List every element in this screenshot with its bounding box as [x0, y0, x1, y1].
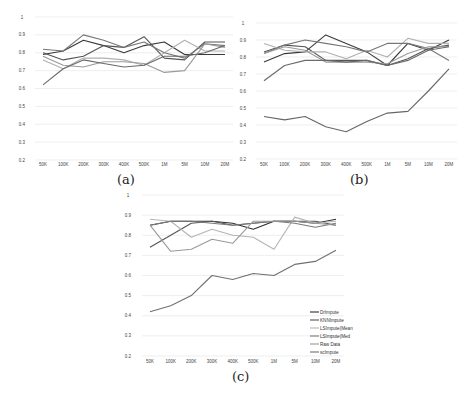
y-tick-label: 0.3 [125, 333, 132, 338]
y-tick-label: 0.7 [125, 253, 132, 258]
x-tick-label: 5M [181, 162, 188, 167]
y-tick-label: 1 [127, 193, 130, 198]
legend-label: LSImpute(Mean [320, 326, 353, 331]
y-tick-label: 0.2 [19, 158, 26, 163]
y-tick-label: 0.4 [240, 123, 247, 128]
series-line-scimpute [150, 250, 336, 311]
x-tick-label: 200K [300, 162, 311, 167]
series-line-scimpute-low [264, 69, 449, 132]
x-tick-label: 20M [221, 162, 230, 167]
x-tick-label: 10M [200, 162, 209, 167]
series-line-lsimpute-mean [150, 217, 336, 249]
x-tick-label: 1M [384, 162, 391, 167]
x-tick-label: 500K [248, 359, 259, 364]
figure-canvas: 10.90.80.70.60.50.40.30.250K100K200K300K… [0, 0, 475, 399]
x-tick-label: 200K [78, 162, 89, 167]
x-tick-label: 1M [271, 359, 278, 364]
x-tick-label: 500K [139, 162, 150, 167]
y-tick-label: 0.6 [240, 89, 247, 94]
legend-label: Raw Data [320, 342, 341, 347]
y-tick-label: 0.9 [19, 32, 26, 37]
y-tick-label: 0.5 [240, 106, 247, 111]
x-tick-label: 200K [186, 359, 197, 364]
y-tick-label: 0.9 [125, 213, 132, 218]
y-tick-label: 1 [21, 15, 24, 20]
x-tick-label: 400K [119, 162, 130, 167]
x-tick-label: 50K [260, 162, 268, 167]
legend-label: scImpute [320, 350, 339, 355]
x-tick-label: 10M [311, 359, 320, 364]
x-tick-label: 50K [146, 359, 154, 364]
y-tick-label: 1 [242, 21, 245, 26]
series-line-scimpute [43, 46, 225, 85]
x-tick-label: 1M [161, 162, 168, 167]
x-tick-label: 100K [165, 359, 176, 364]
caption-a: (a) [117, 172, 135, 187]
x-tick-label: 300K [207, 359, 218, 364]
y-tick-label: 0.4 [125, 313, 132, 318]
chart-b: 10.90.80.70.60.50.40.30.250K100K200K300K… [240, 21, 457, 168]
x-tick-label: 100K [279, 162, 290, 167]
x-tick-label: 400K [341, 162, 352, 167]
x-tick-label: 5M [405, 162, 412, 167]
x-tick-label: 20M [332, 359, 341, 364]
series-line-knnimpute [150, 221, 336, 247]
y-tick-label: 0.8 [125, 233, 132, 238]
y-tick-label: 0.9 [240, 38, 247, 43]
x-tick-label: 400K [227, 359, 238, 364]
x-tick-label: 5M [292, 359, 299, 364]
y-tick-label: 0.2 [125, 354, 132, 359]
x-tick-label: 20M [445, 162, 454, 167]
y-tick-label: 0.7 [240, 72, 247, 77]
x-tick-label: 100K [58, 162, 69, 167]
caption-c: (c) [232, 369, 249, 384]
x-tick-label: 50K [39, 162, 47, 167]
y-tick-label: 0.8 [240, 55, 247, 60]
x-tick-label: 10M [424, 162, 433, 167]
y-tick-label: 0.8 [19, 50, 26, 55]
legend-label: KNNImpute [320, 318, 344, 323]
legend-label: LSImpute(Med [320, 334, 351, 339]
x-tick-label: 500K [362, 162, 373, 167]
y-tick-label: 0.3 [19, 140, 26, 145]
y-tick-label: 0.6 [125, 273, 132, 278]
legend-label: DrImpute [320, 310, 339, 315]
y-tick-label: 0.6 [19, 86, 26, 91]
x-tick-label: 300K [320, 162, 331, 167]
chart-c: 10.90.80.70.60.50.40.30.250K100K200K300K… [125, 193, 353, 365]
chart-a: 10.90.80.70.60.50.40.30.250K100K200K300K… [19, 15, 233, 168]
y-tick-label: 0.7 [19, 68, 26, 73]
y-tick-label: 0.5 [125, 293, 132, 298]
caption-b: (b) [350, 172, 368, 187]
x-tick-label: 300K [98, 162, 109, 167]
y-tick-label: 0.3 [240, 140, 247, 145]
y-tick-label: 0.2 [240, 157, 247, 162]
y-tick-label: 0.4 [19, 122, 26, 127]
y-tick-label: 0.5 [19, 104, 26, 109]
